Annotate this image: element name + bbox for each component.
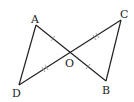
segment-ab (36, 25, 106, 81)
geometry-figure: A C O D B (0, 0, 134, 102)
label-b: B (102, 84, 110, 97)
segment-cb (106, 20, 121, 81)
label-a: A (30, 13, 40, 26)
label-c: C (120, 8, 128, 21)
label-o: O (65, 57, 74, 70)
label-d: D (12, 87, 21, 100)
